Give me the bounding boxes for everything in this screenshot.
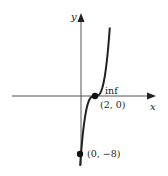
y-intercept-label: (0, −8)	[87, 148, 121, 159]
y-axis-label: y	[70, 11, 77, 22]
x-axis-arrow-icon	[147, 93, 156, 100]
inflection-point	[92, 93, 98, 99]
x-axis-label: x	[150, 101, 156, 112]
y-axis-arrow-icon	[78, 13, 85, 22]
y-intercept-point	[77, 151, 83, 157]
inflection-point-label: (2, 0)	[100, 99, 126, 110]
cubic-graph: y x inf (2, 0) (0, −8)	[0, 0, 168, 176]
inflection-label: inf	[105, 85, 119, 96]
